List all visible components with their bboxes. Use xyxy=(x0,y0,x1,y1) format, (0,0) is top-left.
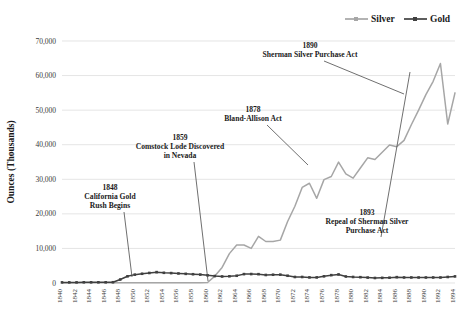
x-axis-tick-label: 1862 xyxy=(216,289,224,304)
series-marker-gold xyxy=(177,272,180,275)
series-marker-gold xyxy=(417,276,420,279)
series-marker-gold xyxy=(403,276,406,279)
series-marker-gold xyxy=(119,278,122,281)
series-marker-gold xyxy=(133,273,136,276)
legend-label-gold: Gold xyxy=(430,14,451,24)
series-marker-gold xyxy=(337,273,340,276)
annotation-line: California Gold xyxy=(84,192,136,201)
annotation-repeal-of-sherman-silver-purchase-act: 1893Repeal of Sherman SilverPurchase Act xyxy=(326,208,410,235)
legend-item-gold[interactable]: Gold xyxy=(404,14,451,24)
annotation-line: Sherman Silver Purchase Act xyxy=(263,50,358,59)
annotation-line: 1878 xyxy=(245,105,260,114)
series-marker-gold xyxy=(264,274,267,277)
annotation-line: in Nevada xyxy=(164,151,197,160)
x-axis-tick-label: 1866 xyxy=(245,289,253,304)
series-marker-gold xyxy=(148,272,151,275)
series-marker-gold xyxy=(68,281,71,284)
annotation-line: 1893 xyxy=(359,208,374,217)
series-marker-gold xyxy=(250,273,253,276)
series-marker-gold xyxy=(112,281,115,284)
legend-marker-silver-icon xyxy=(354,17,358,21)
chart-legend: Silver Gold xyxy=(345,14,451,24)
series-marker-gold xyxy=(330,274,333,277)
series-marker-gold xyxy=(374,277,377,280)
annotation-line: 1848 xyxy=(102,183,117,192)
annotations-group: 1848California GoldRush Begins1859Comsto… xyxy=(84,41,410,281)
series-marker-gold xyxy=(286,274,289,277)
series-marker-gold xyxy=(243,273,246,276)
x-axis-tick-label: 1864 xyxy=(231,289,239,304)
annotation-leader-line-california-gold-rush xyxy=(124,212,132,277)
series-marker-gold xyxy=(155,271,158,274)
series-line-silver xyxy=(62,63,455,282)
series-marker-gold xyxy=(97,281,100,284)
series-marker-gold xyxy=(315,276,318,279)
series-marker-gold xyxy=(272,273,275,276)
x-axis-tick-label: 1850 xyxy=(129,289,137,304)
annotation-sherman-silver-purchase-act: 1890Sherman Silver Purchase Act xyxy=(263,41,358,59)
y-axis-title: Ounces (Thousands) xyxy=(6,120,17,203)
x-axis-tick-label: 1844 xyxy=(85,289,93,304)
x-axis-tick-label: 1886 xyxy=(391,289,399,304)
x-axis-tick-label: 1892 xyxy=(434,289,442,304)
series-marker-gold xyxy=(359,276,362,279)
y-axis-tick-label: 50,000 xyxy=(35,106,56,115)
series-marker-gold xyxy=(352,276,355,279)
y-axis-tick-label: 10,000 xyxy=(35,244,56,253)
series-marker-gold xyxy=(235,274,238,277)
series-marker-gold xyxy=(381,277,384,280)
x-axis-tick-label: 1848 xyxy=(114,289,122,304)
annotation-leader-line-sherman-silver-purchase-act xyxy=(324,61,404,94)
series-marker-gold xyxy=(184,273,187,276)
series-marker-gold xyxy=(345,275,348,278)
series-marker-gold xyxy=(83,281,86,284)
series-marker-gold xyxy=(395,276,398,279)
y-axis-tick-label: 70,000 xyxy=(35,37,56,46)
series-marker-gold xyxy=(410,276,413,279)
annotation-line: Repeal of Sherman Silver xyxy=(326,217,410,226)
silver-gold-production-line-chart: Silver Gold Ounces (Thousands) 010,00020… xyxy=(0,0,469,326)
series-marker-gold xyxy=(61,281,64,284)
legend-item-silver[interactable]: Silver xyxy=(345,14,396,24)
annotation-leader-line-repeal-of-sherman-silver-purchase-act xyxy=(381,72,410,237)
series-marker-gold xyxy=(192,273,195,276)
x-axis-tick-label: 1854 xyxy=(158,289,166,304)
series-marker-gold xyxy=(323,275,326,278)
series-marker-gold xyxy=(279,273,282,276)
annotation-line: Bland-Allison Act xyxy=(224,114,282,123)
series-marker-gold xyxy=(454,275,457,278)
annotation-line: Rush Begins xyxy=(90,201,130,210)
series-marker-gold xyxy=(439,276,442,279)
y-axis-tick-label: 20,000 xyxy=(35,209,56,218)
series-marker-gold xyxy=(308,276,311,279)
chart-container: Silver Gold Ounces (Thousands) 010,00020… xyxy=(0,0,469,326)
x-axis-tick-label: 1856 xyxy=(172,289,180,304)
series-marker-gold xyxy=(432,276,435,279)
annotation-leader-line-comstock-lode xyxy=(194,162,208,281)
series-marker-gold xyxy=(170,272,173,275)
series-marker-gold xyxy=(257,273,260,276)
y-axis-tick-label: 30,000 xyxy=(35,175,56,184)
x-axis-tick-label: 1878 xyxy=(333,289,341,304)
legend-label-silver: Silver xyxy=(371,14,396,24)
x-axis-tick-label: 1846 xyxy=(100,289,108,304)
data-series-group xyxy=(61,63,457,283)
series-marker-gold xyxy=(199,273,202,276)
x-axis-tick-label: 1880 xyxy=(347,289,355,304)
series-marker-gold xyxy=(104,281,107,284)
annotation-california-gold-rush: 1848California GoldRush Begins xyxy=(84,183,136,210)
legend-marker-gold-icon xyxy=(413,17,417,21)
x-axis-tick-label: 1882 xyxy=(362,289,370,304)
x-axis-tick-label: 1860 xyxy=(202,289,210,304)
series-marker-gold xyxy=(228,275,231,278)
y-axis-tick-label: 0 xyxy=(52,279,56,288)
x-axis-tick-label: 1890 xyxy=(420,289,428,304)
x-axis-tick-label: 1874 xyxy=(303,289,311,304)
x-axis-tick-label: 1840 xyxy=(56,289,64,304)
x-axis-tick-label: 1870 xyxy=(274,289,282,304)
annotation-line: 1859 xyxy=(172,133,187,142)
series-marker-gold xyxy=(221,275,224,278)
series-marker-gold xyxy=(214,275,217,278)
series-marker-gold xyxy=(425,276,428,279)
x-axis-tick-label: 1876 xyxy=(318,289,326,304)
